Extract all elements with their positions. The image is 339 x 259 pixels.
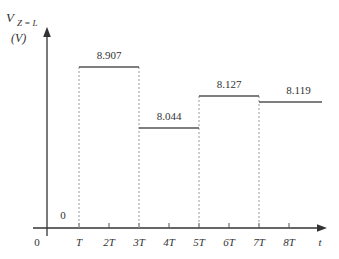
y-axis-unit: (V): [11, 31, 26, 45]
x-axis-label: t: [318, 236, 322, 248]
x-tick-label: 2T: [103, 236, 116, 248]
x-tick-label: 4T: [163, 236, 176, 248]
step-boundaries: [79, 67, 259, 228]
value-label: 8.907: [97, 49, 122, 61]
chart: V Z = L (V) 0 t T2T3T4T5T6T7T8T 08.9078.…: [0, 0, 339, 259]
x-tick-label: 8T: [283, 236, 296, 248]
x-tick-label: 7T: [253, 236, 266, 248]
value-label: 8.119: [286, 84, 311, 96]
value-label: 8.044: [157, 110, 182, 122]
origin-label: 0: [34, 236, 40, 248]
y-axis-label: V Z = L: [6, 10, 38, 28]
x-tick-label: 6T: [223, 236, 236, 248]
value-label: 8.127: [217, 78, 242, 90]
step-segments: [79, 67, 322, 128]
chart-svg: V Z = L (V) 0 t T2T3T4T5T6T7T8T 08.9078.…: [0, 0, 339, 259]
x-tick-label: 5T: [193, 236, 206, 248]
value-labels: 08.9078.0448.1278.119: [60, 49, 311, 221]
x-tick-label: 3T: [132, 236, 146, 248]
x-tick-label: T: [76, 236, 83, 248]
x-ticks: T2T3T4T5T6T7T8T: [76, 223, 296, 248]
value-label: 0: [60, 209, 66, 221]
